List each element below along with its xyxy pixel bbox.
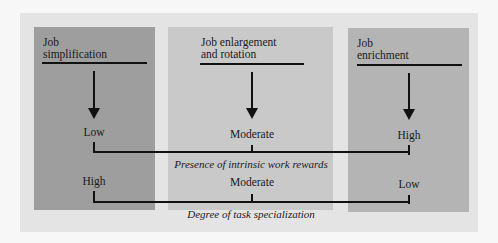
header-line-1: Job [357,37,409,49]
bracket-tick [408,145,410,155]
header-line-2: simplification [43,48,107,60]
bracket-line-specialization [93,201,410,203]
arrow-head-icon [246,108,258,119]
dimension-label-specialization: Degree of task specialization [187,208,315,220]
header-line-2: and rotation [201,48,276,60]
column-header-enrichment: Job enrichment [357,37,409,61]
value-enrichment-rewards: High [398,129,421,141]
arrow-down-icon [93,71,95,109]
header-underline [42,62,147,64]
header-underline [357,64,462,66]
column-header-enlargement: Job enlargement and rotation [201,36,276,60]
arrow-head-icon [88,108,100,119]
header-line-1: Job enlargement [201,36,276,48]
value-enlargement-specialization: Moderate [230,176,274,188]
value-enrichment-specialization: Low [398,178,419,190]
arrow-down-icon [251,72,253,109]
value-simplification-rewards: Low [83,126,104,138]
value-simplification-specialization: High [83,175,106,187]
value-enlargement-rewards: Moderate [230,128,274,140]
arrow-down-icon [408,73,410,110]
bracket-line-rewards [93,151,410,153]
header-line-1: Job [43,36,107,48]
dimension-label-rewards: Presence of intrinsic work rewards [174,158,327,170]
header-underline [200,63,304,65]
column-header-simplification: Job simplification [43,36,107,60]
arrow-head-icon [403,109,415,120]
header-line-2: enrichment [357,49,409,61]
